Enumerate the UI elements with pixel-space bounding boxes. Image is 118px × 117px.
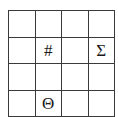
grid-cell-r4c3[interactable] (62, 90, 89, 117)
grid-cell-r1c4[interactable] (88, 11, 115, 38)
grid-cell-r2c2-number-sign[interactable]: # (35, 37, 62, 64)
symbol-grid-container: # Σ Θ (8, 10, 110, 112)
grid-cell-r4c2-theta[interactable]: Θ (35, 90, 62, 117)
table-row (9, 64, 115, 91)
symbol-grid: # Σ Θ (8, 10, 115, 117)
grid-cell-r2c3[interactable] (62, 37, 89, 64)
table-row: # Σ (9, 37, 115, 64)
grid-cell-r3c1[interactable] (9, 64, 36, 91)
table-row (9, 11, 115, 38)
grid-cell-r2c4-sigma[interactable]: Σ (88, 37, 115, 64)
grid-cell-r4c1[interactable] (9, 90, 36, 117)
grid-cell-r4c4[interactable] (88, 90, 115, 117)
grid-cell-r1c2[interactable] (35, 11, 62, 38)
grid-cell-r2c1[interactable] (9, 37, 36, 64)
grid-body: # Σ Θ (9, 11, 115, 117)
grid-cell-r3c3[interactable] (62, 64, 89, 91)
grid-cell-r3c2[interactable] (35, 64, 62, 91)
grid-cell-r1c1[interactable] (9, 11, 36, 38)
grid-cell-r3c4[interactable] (88, 64, 115, 91)
grid-cell-r1c3[interactable] (62, 11, 89, 38)
table-row: Θ (9, 90, 115, 117)
